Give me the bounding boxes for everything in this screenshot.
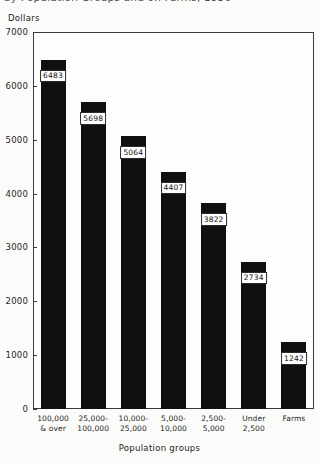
y-tick-label: 7000 (0, 28, 28, 37)
bar-value-label: 1242 (281, 352, 307, 365)
y-tick-mark (33, 409, 37, 410)
bar[interactable] (121, 136, 146, 409)
x-category-line: 10,000 (160, 424, 187, 434)
x-category-line: 10,000- (119, 414, 149, 424)
x-category-line: 25,000- (77, 414, 109, 424)
y-tick-label: 4000 (0, 190, 28, 199)
x-axis-category-label: 10,000-25,000 (119, 414, 149, 433)
y-tick-mark (33, 301, 37, 302)
bar[interactable] (161, 172, 186, 409)
page-title: by Population Groups and on Farms, 1950 (4, 0, 232, 3)
y-tick-mark (33, 247, 37, 248)
x-axis-caption: Population groups (0, 443, 319, 453)
y-tick-label: 6000 (0, 82, 28, 91)
y-tick-mark (33, 140, 37, 141)
x-axis-category-label: 2,500-5,000 (201, 414, 226, 433)
y-tick-label: 0 (0, 405, 28, 414)
chart-title-strip: by Population Groups and on Farms, 1950 (0, 0, 319, 11)
x-axis-category-label: 5,000-10,000 (160, 414, 187, 433)
bar-value-label: 5698 (80, 112, 106, 125)
y-tick-label: 2000 (0, 297, 28, 306)
bar-value-label: 5064 (120, 146, 146, 159)
x-category-line: 25,000 (119, 424, 149, 434)
x-axis-category-label: Farms (282, 414, 305, 424)
x-category-line: 5,000- (160, 414, 187, 424)
y-tick-label: 3000 (0, 243, 28, 252)
x-category-line: 100,000 (77, 424, 109, 434)
x-category-line: 5,000 (201, 424, 226, 434)
y-tick-mark (33, 32, 37, 33)
bar[interactable] (201, 203, 226, 409)
x-axis-category-label: 25,000-100,000 (77, 414, 109, 433)
bar[interactable] (81, 102, 106, 409)
x-category-line: Farms (282, 414, 305, 424)
x-axis-category-label: 100,000& over (37, 414, 69, 433)
x-category-line: & over (37, 424, 69, 434)
y-axis-caption: Dollars (8, 13, 40, 23)
y-tick-label: 1000 (0, 351, 28, 360)
bar[interactable] (41, 60, 66, 409)
bar-value-label: 2734 (241, 272, 267, 285)
x-axis-category-label: Under2,500 (242, 414, 265, 433)
y-tick-mark (33, 194, 37, 195)
bar-value-label: 6483 (40, 70, 66, 83)
x-category-line: 100,000 (37, 414, 69, 424)
y-tick-mark (33, 355, 37, 356)
y-tick-label: 5000 (0, 136, 28, 145)
bar-value-label: 3822 (201, 213, 227, 226)
y-tick-mark (33, 86, 37, 87)
x-category-line: 2,500- (201, 414, 226, 424)
x-category-line: 2,500 (242, 424, 265, 434)
x-category-line: Under (242, 414, 265, 424)
bar-value-label: 4407 (161, 182, 187, 195)
